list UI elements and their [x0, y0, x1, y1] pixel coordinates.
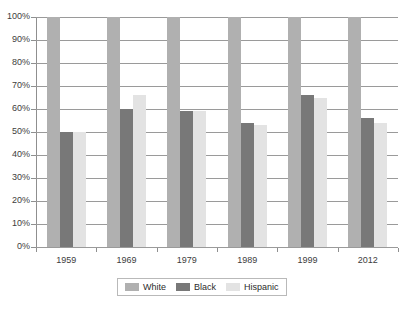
y-axis-tick-label: 80%: [0, 58, 30, 67]
bar-white-1959: [47, 17, 60, 247]
legend-swatch-hispanic: [226, 283, 240, 291]
bar-hispanic-1979: [193, 111, 206, 247]
y-axis-tick-label: 40%: [0, 150, 30, 159]
x-axis-tick-label: 1999: [277, 255, 337, 265]
y-axis-tick-mark: [31, 224, 36, 225]
bar-black-2012: [361, 118, 374, 247]
bar-white-1969: [107, 17, 120, 247]
x-axis-tick-mark: [217, 248, 218, 252]
gridline: [36, 63, 398, 64]
bar-hispanic-2012: [374, 123, 387, 247]
bar-white-1989: [228, 17, 241, 247]
y-axis-tick-mark: [31, 155, 36, 156]
y-axis-tick-mark: [31, 109, 36, 110]
y-axis-tick-mark: [31, 178, 36, 179]
y-axis-tick-label: 0%: [0, 242, 30, 251]
legend-label-hispanic: Hispanic: [244, 282, 279, 292]
legend-item-white[interactable]: White: [125, 282, 166, 292]
gridline: [36, 40, 398, 41]
y-axis-tick-label: 50%: [0, 127, 30, 136]
gridline: [36, 224, 398, 225]
gridline: [36, 201, 398, 202]
bar-white-2012: [348, 17, 361, 247]
bar-group: [228, 17, 267, 247]
legend-label-black: Black: [194, 282, 216, 292]
y-axis-tick-mark: [31, 247, 36, 248]
bar-group: [167, 17, 206, 247]
bar-chart: 100%90%80%70%60%50%40%30%20%10%0% 195919…: [0, 0, 408, 314]
gridline: [36, 86, 398, 87]
bar-black-1979: [180, 111, 193, 247]
y-axis-tick-mark: [31, 63, 36, 64]
x-axis-tick-label: 2012: [338, 255, 398, 265]
y-axis-tick-mark: [31, 201, 36, 202]
gridline: [36, 132, 398, 133]
bar-black-1999: [301, 95, 314, 247]
x-axis-tick-mark: [157, 248, 158, 252]
x-axis-tick-mark: [96, 248, 97, 252]
y-axis-tick-mark: [31, 86, 36, 87]
bar-white-1999: [288, 17, 301, 247]
plot-area: [36, 17, 398, 247]
x-axis-tick-label: 1959: [36, 255, 96, 265]
bar-group: [348, 17, 387, 247]
x-axis-tick-mark: [398, 248, 399, 252]
bar-group: [47, 17, 86, 247]
y-axis-tick-mark: [31, 132, 36, 133]
bar-hispanic-1989: [254, 125, 267, 247]
x-axis-tick-label: 1979: [157, 255, 217, 265]
y-axis-tick-label: 90%: [0, 35, 30, 44]
y-axis-tick-label: 20%: [0, 196, 30, 205]
bar-hispanic-1969: [133, 95, 146, 247]
y-axis-labels: 100%90%80%70%60%50%40%30%20%10%0%: [0, 0, 30, 314]
x-axis-tick-mark: [277, 248, 278, 252]
x-axis-tick-mark: [36, 248, 37, 252]
legend-label-white: White: [143, 282, 166, 292]
bar-group: [288, 17, 327, 247]
legend-swatch-white: [125, 283, 139, 291]
y-axis-tick-label: 70%: [0, 81, 30, 90]
bar-white-1979: [167, 17, 180, 247]
bar-black-1969: [120, 109, 133, 247]
gridline: [36, 17, 398, 18]
gridline: [36, 178, 398, 179]
y-axis-tick-mark: [31, 40, 36, 41]
x-axis-tick-label: 1969: [96, 255, 156, 265]
bar-black-1959: [60, 132, 73, 247]
x-axis-tick-label: 1989: [217, 255, 277, 265]
y-axis-tick-mark: [31, 17, 36, 18]
bar-hispanic-1999: [314, 98, 327, 248]
legend-item-hispanic[interactable]: Hispanic: [226, 282, 279, 292]
y-axis-tick-label: 100%: [0, 12, 30, 21]
y-axis-tick-label: 10%: [0, 219, 30, 228]
y-axis-tick-label: 30%: [0, 173, 30, 182]
legend-item-black[interactable]: Black: [176, 282, 216, 292]
y-axis-tick-label: 60%: [0, 104, 30, 113]
bar-hispanic-1959: [73, 132, 86, 247]
chart-legend: WhiteBlackHispanic: [117, 278, 287, 296]
bar-group: [107, 17, 146, 247]
bar-black-1989: [241, 123, 254, 247]
x-axis-tick-mark: [338, 248, 339, 252]
gridline: [36, 155, 398, 156]
gridline: [36, 109, 398, 110]
legend-swatch-black: [176, 283, 190, 291]
